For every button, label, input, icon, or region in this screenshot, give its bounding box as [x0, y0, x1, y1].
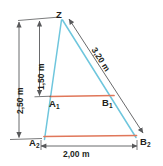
dimension-label-height-total: 2,50 m — [16, 88, 25, 114]
ray-group — [45, 20, 137, 140]
geometry-diagram: Z A1 B1 A2 B2 2,50 m 1,50 m 3,20 m 2,00 … — [0, 0, 163, 166]
point-label-a1: A1 — [49, 99, 60, 109]
dimension-label-base-width: 2,00 m — [63, 150, 89, 159]
dimension-line-hypotenuse — [69, 19, 143, 133]
ray-z-to-a2 — [45, 20, 62, 140]
point-label-z: Z — [56, 10, 62, 20]
ray-z-to-b2 — [63, 20, 137, 138]
dimension-label-height-inner: 1,50 m — [37, 64, 46, 90]
point-label-a2: A2 — [29, 138, 40, 148]
extension-top-outer — [18, 17, 60, 21]
point-label-b2: B2 — [140, 137, 151, 147]
bottom-tick-group — [41, 140, 137, 150]
crossbar-a2-b2 — [44, 136, 137, 137]
geometry-canvas — [0, 0, 163, 166]
extension-mid-inner — [35, 96, 52, 97]
point-label-b1: B1 — [102, 98, 113, 108]
